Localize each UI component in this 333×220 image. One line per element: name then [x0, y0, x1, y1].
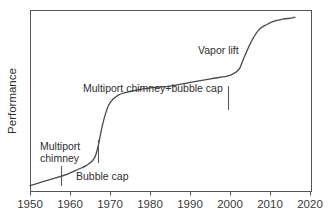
annotation-multiport-chimney-line1: Multiport [40, 140, 80, 152]
x-tick-label-1960: 1960 [57, 198, 83, 210]
annotation-multiport-chimney-line2: chimney [40, 152, 80, 164]
x-tick-label-1950: 1950 [17, 198, 43, 210]
annotation-bubble-cap: Bubble cap [76, 170, 129, 182]
plot-frame [31, 11, 312, 192]
x-tick-label-1980: 1980 [137, 198, 163, 210]
x-tick-label-2000: 2000 [217, 198, 243, 210]
annotation-vapor-lift: Vapor lift [198, 44, 239, 56]
x-axis-ticks [31, 192, 311, 196]
x-tick-label-1970: 1970 [97, 198, 123, 210]
x-tick-label-2010: 2010 [257, 198, 283, 210]
annotation-multiport-chimney-bubble-cap: Multiport chimney+bubble cap [83, 82, 223, 94]
x-tick-label-2020: 2020 [297, 198, 323, 210]
chart-figure: 1950 1960 1970 1980 1990 2000 2010 2020 … [0, 0, 333, 220]
x-tick-label-1990: 1990 [177, 198, 203, 210]
y-axis-title: Performance [6, 68, 18, 134]
performance-s-curve-chart: 1950 1960 1970 1980 1990 2000 2010 2020 … [0, 0, 333, 220]
